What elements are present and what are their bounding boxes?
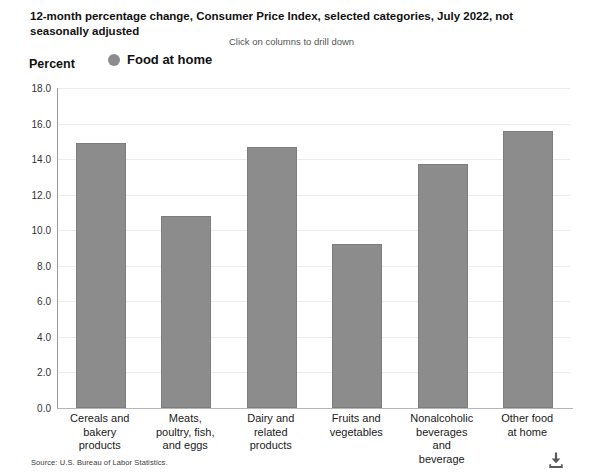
gridline	[58, 301, 570, 302]
y-axis-tick-label: 14.0	[5, 154, 51, 165]
y-axis-tick-label: 12.0	[5, 189, 51, 200]
gridline	[58, 195, 570, 196]
x-axis-line	[57, 408, 573, 409]
bar-column[interactable]	[418, 164, 468, 408]
legend-marker-circle-icon	[108, 54, 120, 66]
plot-area	[57, 88, 570, 408]
bar-column[interactable]	[247, 147, 297, 408]
y-axis-tick-label: 8.0	[5, 260, 51, 271]
bar-column[interactable]	[76, 143, 126, 408]
gridline	[58, 159, 570, 160]
y-axis-tick-label: 2.0	[5, 367, 51, 378]
y-axis-tick-label: 10.0	[5, 225, 51, 236]
y-axis-title: Percent	[29, 57, 75, 71]
y-axis-tick-label: 6.0	[5, 296, 51, 307]
x-axis-category-label[interactable]: Nonalcoholicbeveragesandbeverage	[399, 412, 485, 466]
x-axis-category-label[interactable]: Fruits andvegetables	[314, 412, 400, 439]
legend-item-label[interactable]: Food at home	[127, 52, 212, 67]
x-axis-category-label[interactable]: Dairy andrelatedproducts	[228, 412, 314, 453]
source-note: Source: U.S. Bureau of Labor Statistics.	[31, 458, 168, 467]
gridline	[58, 337, 570, 338]
download-icon[interactable]	[546, 450, 566, 470]
gridline	[58, 230, 570, 231]
y-axis-tick-label: 18.0	[5, 83, 51, 94]
x-axis-category-label[interactable]: Cereals andbakeryproducts	[57, 412, 143, 453]
drill-down-hint: Click on columns to drill down	[229, 36, 354, 47]
y-axis-tick-labels: 0.02.04.06.08.010.012.014.016.018.0	[0, 88, 51, 408]
page-title: 12-month percentage change, Consumer Pri…	[30, 9, 550, 39]
bar-column[interactable]	[161, 216, 211, 408]
y-axis-tick-label: 16.0	[5, 118, 51, 129]
x-axis-category-label[interactable]: Other foodat home	[485, 412, 571, 439]
chart-legend: Food at home	[108, 52, 212, 67]
bar-column[interactable]	[332, 244, 382, 408]
x-axis-category-label[interactable]: Meats,poultry, fish,and eggs	[143, 412, 229, 453]
y-axis-tick-label: 4.0	[5, 331, 51, 342]
gridline	[58, 266, 570, 267]
y-axis-tick-label: 0.0	[5, 403, 51, 414]
gridline	[58, 372, 570, 373]
gridline	[58, 124, 570, 125]
bar-column[interactable]	[503, 131, 553, 408]
gridline	[58, 88, 570, 89]
